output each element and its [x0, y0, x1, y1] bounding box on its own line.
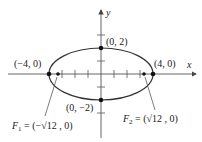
focus-f1-point — [56, 72, 60, 76]
label-bottom: (0, −2) — [66, 102, 93, 114]
f1-leader-line — [45, 77, 57, 116]
label-f1: F1 = (−√12 , 0) — [11, 120, 73, 133]
vertex-top-point — [99, 46, 104, 51]
label-f2: F2 = (√12 , 0) — [122, 113, 178, 126]
label-right: (4, 0) — [154, 58, 176, 70]
vertex-right-point — [151, 72, 156, 77]
label-top: (0, 2) — [106, 36, 128, 48]
focus-f2-point — [142, 72, 146, 76]
label-left: (−4, 0) — [14, 58, 41, 70]
x-axis-label: x — [186, 59, 192, 70]
ellipse-diagram: y x (0, 2) (0, −2) (−4, 0) (4, 0) F1 = (… — [0, 0, 202, 142]
y-axis-label: y — [105, 7, 111, 18]
vertex-bottom-point — [99, 98, 104, 103]
vertex-left-point — [47, 72, 52, 77]
